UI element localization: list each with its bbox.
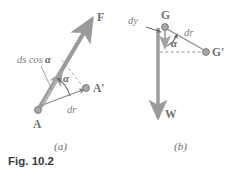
label-dr-b: dr <box>184 27 193 38</box>
point-A-dot <box>35 107 42 114</box>
label-dy: dy <box>128 15 138 26</box>
label-point-A: A <box>33 118 41 130</box>
caption-panel-a: (a) <box>54 140 67 152</box>
figure-10-2: F ds cosα α dr A A' (a) dy G dr α G' W (… <box>0 0 235 176</box>
label-ds-cos-text: ds cos <box>17 54 43 65</box>
point-G-dot <box>162 24 169 31</box>
point-G-prime-dot <box>203 49 210 56</box>
label-angle-alpha-b: α <box>171 37 177 49</box>
caption-panel-b: (b) <box>174 140 187 152</box>
label-point-G: G <box>161 9 170 21</box>
label-angle-alpha-a: α <box>63 72 69 84</box>
figure-vector-graphics <box>0 0 235 176</box>
label-dr-a: dr <box>67 104 76 115</box>
point-A-prime-dot <box>83 85 90 92</box>
label-force-F: F <box>97 10 104 25</box>
label-ds-cos-alpha-symbol: α <box>43 54 51 65</box>
ds-cos-alpha-leader-line <box>41 66 52 90</box>
label-weight-W: W <box>165 108 177 120</box>
label-point-G-prime: G' <box>212 46 224 58</box>
figure-number-label: Fig. 10.2 <box>8 155 54 167</box>
label-ds-cos-alpha: ds cosα <box>17 54 51 65</box>
label-point-A-prime: A' <box>93 82 105 94</box>
projection-segment-ds-cos-alpha <box>41 72 62 108</box>
